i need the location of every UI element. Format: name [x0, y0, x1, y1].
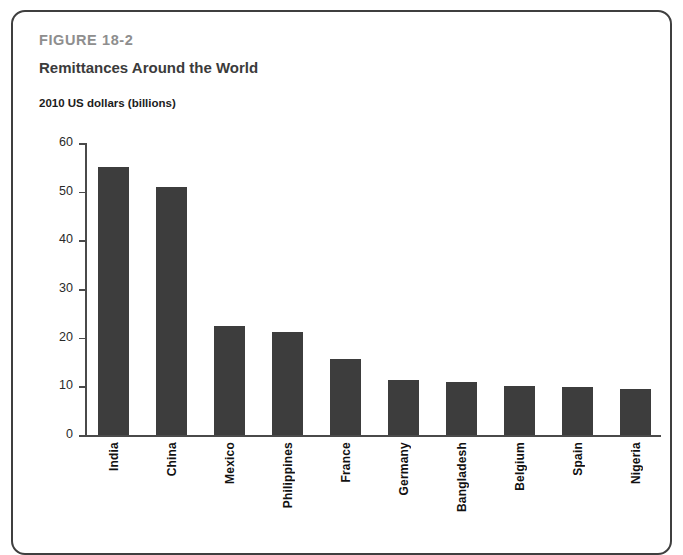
bar[interactable] — [272, 332, 303, 435]
bar-slot — [549, 122, 607, 435]
figure-title: Remittances Around the World — [39, 59, 258, 76]
figure-frame: FIGURE 18-2 Remittances Around the World… — [11, 10, 672, 555]
category-label: Germany — [397, 442, 411, 495]
y-axis-tick-label: 0 — [33, 427, 73, 441]
y-axis-tick-label: 60 — [33, 135, 73, 149]
bar[interactable] — [446, 382, 477, 435]
bar-slot — [143, 122, 201, 435]
bar-slot — [491, 122, 549, 435]
bar-slot — [85, 122, 143, 435]
category-label: France — [339, 442, 353, 483]
category-label: Belgium — [513, 442, 527, 491]
bar-chart-plot-area: 0102030405060 IndiaChinaMexicoPhilippine… — [33, 122, 663, 522]
bar[interactable] — [98, 167, 129, 435]
bar-slot — [375, 122, 433, 435]
category-label: Philippines — [281, 442, 295, 508]
y-axis-tick-label: 50 — [33, 184, 73, 198]
y-axis-tick-label: 10 — [33, 378, 73, 392]
category-label: India — [107, 442, 121, 471]
bar[interactable] — [562, 387, 593, 435]
category-label: Bangladesh — [455, 442, 469, 512]
x-axis-line — [85, 435, 661, 437]
y-axis-title: 2010 US dollars (billions) — [39, 97, 176, 109]
bar-slot — [317, 122, 375, 435]
category-label: Spain — [571, 442, 585, 476]
bar[interactable] — [388, 380, 419, 435]
bar[interactable] — [214, 326, 245, 436]
bar-slot — [201, 122, 259, 435]
bar[interactable] — [504, 386, 535, 435]
y-axis-tick-label: 40 — [33, 232, 73, 246]
figure-number-label: FIGURE 18-2 — [39, 32, 133, 48]
bar-series — [85, 122, 661, 435]
bar[interactable] — [620, 389, 651, 435]
y-axis-tick — [79, 435, 86, 437]
category-label: Mexico — [223, 442, 237, 484]
y-axis-tick-label: 30 — [33, 281, 73, 295]
bar-slot — [259, 122, 317, 435]
category-label: China — [165, 442, 179, 476]
category-label: Nigeria — [629, 442, 643, 484]
bar[interactable] — [156, 187, 187, 435]
y-axis-tick-label: 20 — [33, 330, 73, 344]
bar[interactable] — [330, 359, 361, 435]
bar-slot — [607, 122, 665, 435]
bar-slot — [433, 122, 491, 435]
